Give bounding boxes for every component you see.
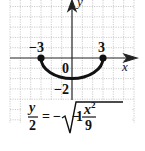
y-axis-label: y xyxy=(77,0,83,8)
tick-label-neg-three: −3 xyxy=(29,41,44,55)
radicand-minus-visible: − xyxy=(72,110,80,124)
x-axis-label: x xyxy=(122,60,128,73)
radicand-numerator: x2 xyxy=(84,101,96,117)
minus-sign: − xyxy=(53,110,61,124)
lhs-numerator: y xyxy=(29,101,35,115)
tick-label-neg-two: −2 xyxy=(54,83,69,97)
origin-label: 0 xyxy=(62,62,69,76)
tick-label-pos-three: 3 xyxy=(98,41,105,55)
radicand-denominator: 9 xyxy=(85,119,92,133)
rad-num-var: x xyxy=(84,102,91,117)
rad-num-exponent: 2 xyxy=(91,100,96,110)
lhs-denominator: 2 xyxy=(29,119,36,133)
endpoint-left xyxy=(37,54,44,61)
endpoint-right xyxy=(99,54,106,61)
equals-sign: = xyxy=(42,110,50,124)
